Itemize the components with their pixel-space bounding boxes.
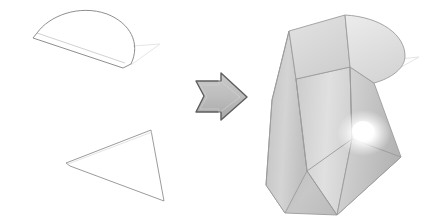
- semicircle-profile-chord: [37, 33, 125, 63]
- illustration-canvas: Loft operation: semicircular profile and…: [0, 0, 439, 217]
- loft-illustration-svg: [0, 0, 439, 217]
- solid-face-top-left-cap[interactable]: [289, 15, 350, 79]
- transform-arrow[interactable]: [196, 73, 247, 120]
- semicircle-ghost-line: [131, 44, 160, 65]
- semicircle-profile-group[interactable]: [33, 10, 160, 68]
- specular-highlight-core: [352, 121, 374, 141]
- rectangle-profile-outline[interactable]: [66, 130, 164, 201]
- lofted-solid[interactable]: [266, 15, 419, 215]
- rectangle-profile-inner-edge: [68, 132, 152, 164]
- semicircle-profile-outline[interactable]: [33, 10, 135, 68]
- rectangle-profile-group[interactable]: [66, 130, 164, 201]
